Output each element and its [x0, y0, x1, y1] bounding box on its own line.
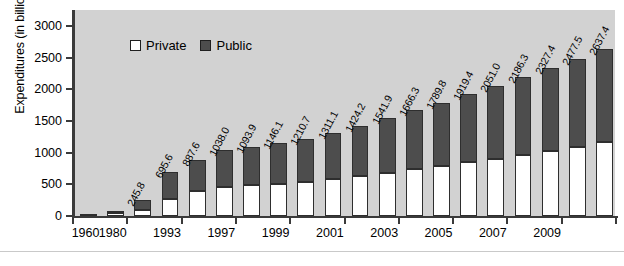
bar-column	[487, 86, 504, 216]
bar-column	[379, 118, 396, 216]
bar-column	[596, 49, 613, 216]
bar-column	[189, 160, 206, 216]
x-tick-label: 2003	[370, 226, 398, 240]
y-tick-label: 1000	[10, 146, 62, 160]
bar-segment-private	[542, 151, 559, 216]
bar-segment-private	[406, 169, 423, 216]
y-tick-label: 500	[10, 177, 62, 191]
x-tick-mark	[398, 218, 400, 224]
y-tick-label: 0	[10, 209, 62, 223]
x-tick-mark	[126, 218, 128, 224]
caption-divider	[0, 251, 624, 252]
legend-swatch-private-icon	[130, 40, 141, 51]
bar-column	[270, 143, 287, 216]
bar-column	[406, 110, 423, 216]
bar-column	[243, 147, 260, 216]
bar-segment-public	[297, 139, 314, 182]
legend-swatch-public-icon	[200, 40, 211, 51]
bar-segment-public	[433, 103, 450, 166]
bar-segment-public	[352, 126, 369, 176]
bar-segment-public	[270, 143, 287, 183]
x-tick-label: 2001	[316, 226, 344, 240]
x-tick-mark	[289, 218, 291, 224]
x-tick-label: 1999	[262, 226, 290, 240]
y-tick-label: 2500	[10, 51, 62, 65]
x-tick-label: 1960	[72, 226, 100, 240]
x-tick-mark	[344, 218, 346, 224]
bar-segment-private	[596, 142, 613, 216]
chart-figure: Expenditures (in billions) 0500100015002…	[0, 0, 624, 266]
bar-segment-private	[515, 155, 532, 216]
legend-label-public: Public	[216, 38, 251, 53]
bar-segment-public	[216, 150, 233, 187]
bar-segment-public	[325, 133, 342, 179]
bar-segment-public	[460, 94, 477, 162]
x-tick-label: 1980	[99, 226, 127, 240]
bar-column	[542, 68, 559, 216]
bar-column	[352, 126, 369, 216]
bar-segment-public	[542, 68, 559, 151]
bar-column	[325, 133, 342, 216]
legend-item-private: Private	[130, 38, 186, 53]
y-tick-label: 1500	[10, 114, 62, 128]
bar-segment-private	[460, 162, 477, 216]
bar-segment-public	[569, 59, 586, 147]
x-tick-mark	[235, 218, 237, 224]
bar-segment-public	[487, 86, 504, 159]
bar-segment-private	[189, 191, 206, 216]
x-tick-mark	[72, 218, 74, 224]
bar-segment-private	[433, 166, 450, 216]
bar-column	[433, 103, 450, 216]
x-tick-label: 1997	[207, 226, 235, 240]
bar-segment-public	[243, 147, 260, 186]
bar-segment-public	[515, 77, 532, 155]
x-tick-mark	[452, 218, 454, 224]
bar-segment-private	[216, 187, 233, 216]
legend-label-private: Private	[146, 38, 186, 53]
bar-column	[297, 139, 314, 216]
bar-segment-private	[162, 199, 179, 216]
bar-segment-private	[379, 173, 396, 216]
bar-segment-private	[243, 185, 260, 216]
y-tick-label: 3000	[10, 19, 62, 33]
x-tick-label: 2009	[533, 226, 561, 240]
y-tick-label: 2000	[10, 82, 62, 96]
bar-column	[569, 59, 586, 216]
legend-item-public: Public	[200, 38, 251, 53]
x-tick-mark	[181, 218, 183, 224]
x-tick-mark	[615, 218, 617, 224]
bar-column	[515, 77, 532, 216]
bar-column	[162, 172, 179, 216]
bar-segment-private	[270, 184, 287, 216]
x-tick-label: 1993	[153, 226, 181, 240]
bar-column	[460, 94, 477, 216]
x-tick-label: 2005	[425, 226, 453, 240]
bar-segment-private	[297, 182, 314, 216]
bar-segment-private	[325, 179, 342, 216]
bar-segment-public	[596, 49, 613, 142]
x-tick-label: 2007	[479, 226, 507, 240]
chart-legend: Private Public	[130, 38, 252, 53]
bar-segment-public	[406, 110, 423, 169]
bar-segment-private	[487, 159, 504, 216]
x-tick-mark	[506, 218, 508, 224]
bar-segment-private	[569, 147, 586, 216]
bar-segment-public	[379, 118, 396, 173]
x-tick-mark	[561, 218, 563, 224]
bar-column	[216, 150, 233, 216]
bar-segment-private	[352, 176, 369, 216]
